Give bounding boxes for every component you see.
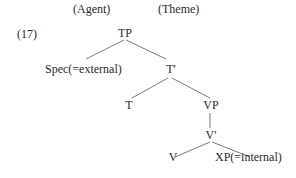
edge-tp-tbar	[126, 40, 166, 59]
edge-vbar-v	[175, 142, 210, 157]
node-t-bar: T'	[166, 63, 176, 76]
node-v: V	[169, 151, 178, 164]
node-vp: VP	[203, 99, 218, 112]
node-spec: Spec(=external)	[45, 63, 122, 76]
node-tp: TP	[118, 27, 132, 40]
node-t: T	[125, 99, 132, 112]
node-v-bar: V'	[206, 129, 217, 142]
theme-label: (Theme)	[158, 3, 199, 16]
edge-tp-spec	[86, 40, 124, 59]
agent-label: (Agent)	[73, 3, 110, 16]
edge-tbar-vp	[172, 78, 210, 98]
edge-tbar-t	[132, 78, 168, 98]
example-number: (17)	[17, 28, 37, 41]
node-xp: XP(=internal)	[215, 151, 282, 164]
